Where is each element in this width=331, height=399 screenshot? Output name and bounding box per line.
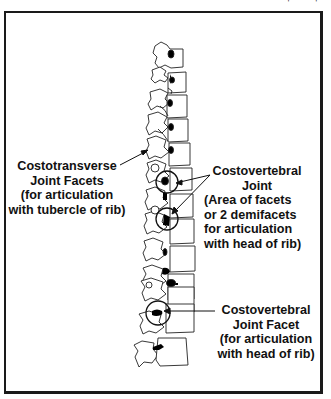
label-line: Joint [198, 179, 316, 194]
label-line: Joint Facets [8, 174, 126, 189]
label-line: or 2 demifacets [198, 208, 316, 223]
vertebra-13 [134, 338, 188, 367]
label-line: for articulation [198, 222, 316, 237]
label-line: (for articulation [212, 332, 320, 347]
label-line: Costovertebral [198, 164, 316, 179]
label-line: with tubercle of rib) [8, 203, 126, 218]
label-costotransverse-joint-facets: Costotransverse Joint Facets (for articu… [8, 159, 126, 217]
label-line: Costotransverse [8, 159, 126, 174]
label-line: Joint Facet [212, 318, 320, 333]
vertebra-1 [153, 42, 183, 68]
label-line: Costovertebral [212, 303, 320, 318]
label-line: with head of rib) [198, 237, 316, 252]
label-line: (for articulation [8, 188, 126, 203]
label-costovertebral-joint-facet: Costovertebral Joint Facet (for articula… [212, 303, 320, 361]
label-line: (Area of facets [198, 193, 316, 208]
label-line: with head of rib) [212, 347, 320, 362]
label-costovertebral-joint: Costovertebral Joint (Area of facets or … [198, 164, 316, 251]
